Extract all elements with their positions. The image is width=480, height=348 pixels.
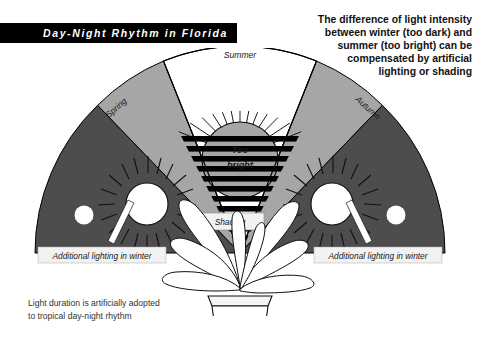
title-banner: Day-Night Rhythm in Florida: [0, 23, 237, 43]
too-bright-label-line2: bright: [227, 160, 254, 170]
label-summer: Summer: [224, 50, 258, 60]
intro-line-2: between winter (too dark) and: [280, 27, 472, 40]
bottom-caption: Light duration is artificially adopted t…: [28, 297, 228, 322]
poster-page: Day-Night Rhythm in Florida The differen…: [0, 0, 480, 348]
intro-line-1: The difference of light intensity: [280, 14, 472, 27]
winter-right-label: Additional lighting in winter: [327, 251, 428, 261]
day-night-rhythm-diagram: Too bright Shading: [0, 48, 480, 316]
winter-right-moon: [387, 206, 406, 225]
winter-left-label: Additional lighting in winter: [51, 251, 152, 261]
too-bright-label-line1: Too: [232, 145, 249, 155]
title-text: Day-Night Rhythm in Florida: [43, 27, 228, 39]
winter-left-moon: [75, 206, 94, 225]
bottom-caption-line-2: to tropical day-night rhythm: [28, 310, 228, 323]
bottom-caption-line-1: Light duration is artificially adopted: [28, 297, 228, 310]
